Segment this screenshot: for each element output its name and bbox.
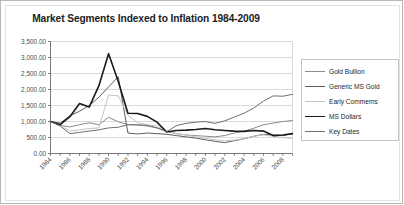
- y-tick-label: 2,500.00: [21, 70, 46, 77]
- y-tick-label: 1,500.00: [21, 102, 46, 109]
- legend-item-label: Early Commems: [329, 98, 378, 105]
- y-tick-label: 2,000.00: [21, 86, 46, 93]
- legend-line-swatch: [305, 101, 325, 102]
- x-tick-label: 1998: [173, 155, 188, 170]
- x-axis-tick-labels: 1984198619881990199219941996199820002002…: [38, 155, 286, 170]
- axis-ticks: [48, 42, 293, 157]
- legend-item-label: Key Dates: [329, 128, 359, 135]
- x-tick-label: 2004: [231, 155, 246, 170]
- x-tick-label: 1984: [38, 155, 53, 170]
- x-tick-label: 1990: [96, 155, 111, 170]
- legend-item-label: Generic MS Gold: [329, 83, 380, 90]
- chart-legend: Gold BullionGeneric MS GoldEarly Commems…: [301, 59, 399, 141]
- y-axis-tick-labels: 3,500.003,000.002,500.002,000.001,500.00…: [21, 38, 46, 157]
- y-tick-label: 3,000.00: [21, 54, 46, 61]
- data-series-lines: [51, 54, 293, 143]
- y-tick-label: 0.00: [34, 150, 47, 157]
- y-tick-label: 3,500.00: [21, 38, 46, 45]
- x-tick-label: 2000: [193, 155, 208, 170]
- x-tick-label: 1986: [57, 155, 72, 170]
- legend-item-key-dates[interactable]: Key Dates: [305, 124, 398, 139]
- legend-line-swatch: [305, 86, 325, 87]
- x-tick-label: 1994: [135, 155, 150, 170]
- y-tick-label: 500.00: [26, 134, 46, 141]
- y-tick-label: 1,000.00: [21, 118, 46, 125]
- legend-item-gold-bullion[interactable]: Gold Bullion: [305, 64, 398, 79]
- x-tick-label: 2008: [270, 155, 285, 170]
- series-line-gold-bullion: [51, 117, 293, 137]
- x-tick-label: 2002: [212, 155, 227, 170]
- legend-item-early-commems[interactable]: Early Commems: [305, 94, 398, 109]
- x-tick-label: 1988: [76, 155, 91, 170]
- axis-lines: [51, 42, 293, 154]
- legend-item-ms-dollars[interactable]: MS Dollars: [305, 109, 398, 124]
- legend-line-swatch: [305, 71, 325, 72]
- legend-line-swatch: [305, 131, 325, 132]
- legend-item-label: Gold Bullion: [329, 68, 365, 75]
- x-tick-label: 1996: [154, 155, 169, 170]
- legend-item-generic-ms-gold[interactable]: Generic MS Gold: [305, 79, 398, 94]
- legend-item-label: MS Dollars: [329, 113, 361, 120]
- x-tick-label: 1992: [115, 155, 130, 170]
- chart-frame: Market Segments Indexed to Inflation 198…: [0, 0, 403, 204]
- series-line-early-commems: [51, 95, 293, 141]
- legend-line-swatch: [305, 116, 325, 117]
- x-tick-label: 2006: [251, 155, 266, 170]
